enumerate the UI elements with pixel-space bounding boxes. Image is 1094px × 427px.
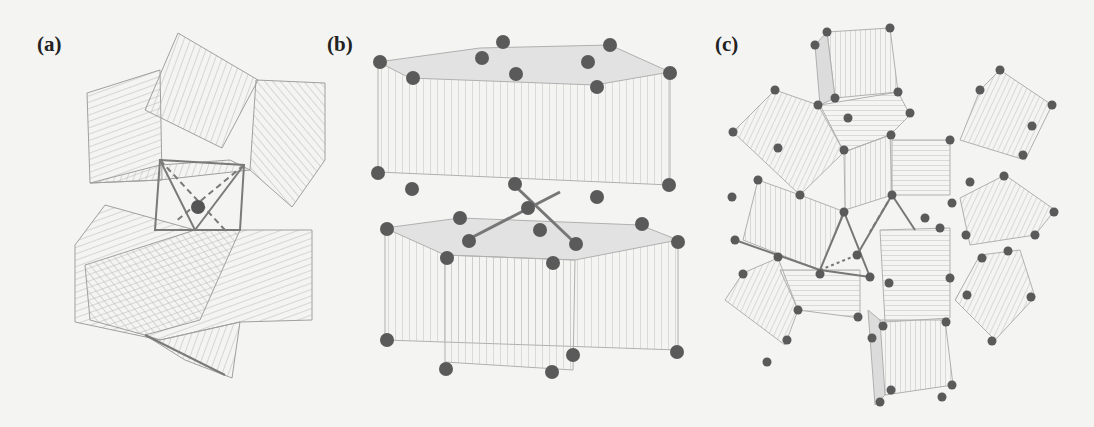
panel-b-label: (b) [327, 32, 353, 57]
panel-c-diagram [720, 0, 1094, 427]
panel-b: (b) [360, 0, 720, 427]
panel-c: (c) [720, 0, 1094, 427]
panel-a-diagram [0, 0, 360, 427]
panel-b-diagram [360, 0, 720, 427]
panel-a: (a) [0, 0, 360, 427]
